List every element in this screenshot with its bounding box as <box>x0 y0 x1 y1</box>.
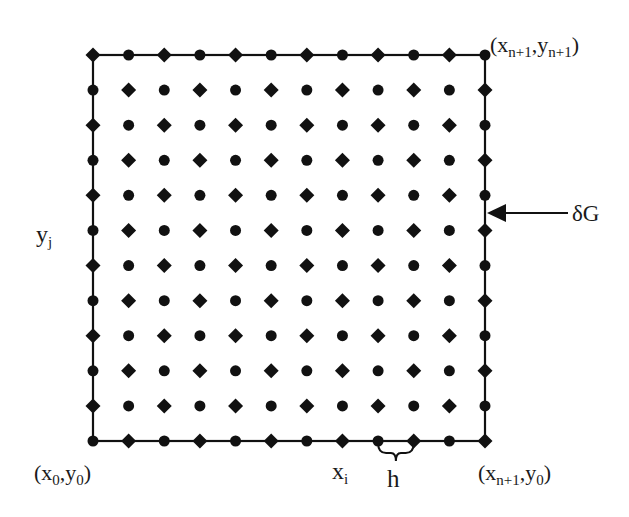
grid-point-diamond <box>442 188 457 203</box>
grid-point-circle <box>337 120 348 131</box>
grid-point-circle <box>123 400 134 411</box>
grid-point-circle <box>444 295 455 306</box>
grid-point-diamond <box>299 398 314 413</box>
grid-point-circle <box>123 50 134 61</box>
grid-point-circle <box>194 190 205 201</box>
grid-point-circle <box>373 295 384 306</box>
grid-point-diamond <box>335 223 350 238</box>
grid-point-circle <box>301 225 312 236</box>
grid-point-circle <box>194 260 205 271</box>
grid-point-circle <box>444 225 455 236</box>
boundary-arrow-head <box>487 204 506 222</box>
grid-point-diamond <box>371 48 386 63</box>
grid-point-diamond <box>335 153 350 168</box>
grid-point-diamond <box>335 293 350 308</box>
grid-point-circle <box>480 260 491 271</box>
grid-point-diamond <box>335 434 350 449</box>
grid-point-circle <box>230 85 241 96</box>
grid-point-circle <box>123 260 134 271</box>
grid-point-circle <box>444 365 455 376</box>
grid-point-diamond <box>192 153 207 168</box>
grid-point-circle <box>88 225 99 236</box>
grid-point-diamond <box>192 434 207 449</box>
grid-point-circle <box>230 155 241 166</box>
grid-point-diamond <box>478 363 493 378</box>
grid-point-circle <box>230 365 241 376</box>
grid-point-circle <box>230 295 241 306</box>
grid-point-diamond <box>478 293 493 308</box>
grid-point-circle <box>337 50 348 61</box>
grid-point-diamond <box>228 398 243 413</box>
grid-point-circle <box>194 50 205 61</box>
grid-point-diamond <box>442 258 457 273</box>
label-top-right-corner: (xn+1,yn+1) <box>490 34 579 60</box>
grid-point-diamond <box>406 363 421 378</box>
grid-point-diamond <box>157 258 172 273</box>
grid-point-diamond <box>442 118 457 133</box>
grid-point-diamond <box>192 223 207 238</box>
grid-point-diamond <box>228 328 243 343</box>
grid-point-diamond <box>371 328 386 343</box>
grid-point-diamond <box>335 363 350 378</box>
grid-point-diamond <box>157 328 172 343</box>
grid-point-circle <box>337 260 348 271</box>
grid-point-circle <box>408 120 419 131</box>
grid-point-circle <box>408 50 419 61</box>
grid-point-diamond <box>406 83 421 98</box>
grid-point-diamond <box>264 223 279 238</box>
grid-point-diamond <box>299 328 314 343</box>
grid-point-circle <box>266 330 277 341</box>
grid-point-diamond <box>478 434 493 449</box>
grid-point-circle <box>123 330 134 341</box>
grid-point-diamond <box>228 118 243 133</box>
grid-point-circle <box>373 365 384 376</box>
grid-point-circle <box>301 436 312 447</box>
h-spacing-brace <box>378 443 414 461</box>
grid-point-circle <box>266 50 277 61</box>
grid-point-circle <box>159 365 170 376</box>
grid-points <box>86 48 493 449</box>
grid-point-circle <box>408 260 419 271</box>
grid-point-circle <box>123 120 134 131</box>
grid-point-circle <box>373 155 384 166</box>
grid-point-circle <box>301 155 312 166</box>
grid-point-diamond <box>371 398 386 413</box>
grid-point-circle <box>337 190 348 201</box>
grid-point-circle <box>230 436 241 447</box>
grid-point-diamond <box>442 48 457 63</box>
label-h-spacing: h <box>387 466 400 491</box>
grid-point-circle <box>480 330 491 341</box>
grid-point-diamond <box>335 83 350 98</box>
label-bottom-right-corner: (xn+1,y0) <box>478 462 551 488</box>
grid-point-diamond <box>121 223 136 238</box>
grid-point-circle <box>408 330 419 341</box>
grid-point-circle <box>373 225 384 236</box>
grid-point-circle <box>159 155 170 166</box>
grid-point-diamond <box>264 83 279 98</box>
grid-point-circle <box>373 85 384 96</box>
grid-point-diamond <box>371 188 386 203</box>
label-bottom-left-corner: (x0,y0) <box>34 462 91 488</box>
grid-point-circle <box>194 120 205 131</box>
grid-point-diamond <box>264 293 279 308</box>
grid-point-diamond <box>228 258 243 273</box>
grid-point-circle <box>194 400 205 411</box>
grid-point-circle <box>88 295 99 306</box>
grid-point-diamond <box>121 83 136 98</box>
grid-point-diamond <box>406 293 421 308</box>
grid-point-diamond <box>157 398 172 413</box>
label-x-i: xi <box>332 459 348 487</box>
grid-point-circle <box>408 190 419 201</box>
grid-point-circle <box>194 330 205 341</box>
grid-point-diamond <box>299 118 314 133</box>
domain-boundary <box>93 55 485 441</box>
grid-point-diamond <box>121 363 136 378</box>
grid-point-diamond <box>86 48 101 63</box>
grid-point-diamond <box>264 153 279 168</box>
grid-point-circle <box>480 400 491 411</box>
grid-point-circle <box>159 436 170 447</box>
grid-point-diamond <box>264 434 279 449</box>
grid-point-circle <box>266 120 277 131</box>
grid-point-circle <box>88 365 99 376</box>
grid-point-diamond <box>157 118 172 133</box>
